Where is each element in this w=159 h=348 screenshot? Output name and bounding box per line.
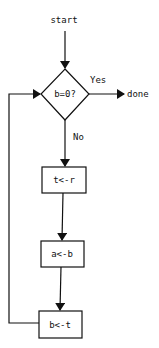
- flowchart: start b=0? Yes done No t<-r a<-b b<-t: [0, 0, 159, 348]
- step-label-a-b: a<-b: [51, 249, 73, 259]
- arrow-step2-step3: [60, 267, 61, 310]
- step-label-t-r: t<-r: [53, 175, 75, 185]
- decision-label: b=0?: [54, 89, 76, 99]
- done-label: done: [127, 89, 149, 99]
- arrow-step1-step2: [62, 193, 63, 240]
- start-label: start: [50, 15, 77, 25]
- loop-back-arrow: [9, 94, 40, 323]
- yes-label: Yes: [90, 75, 106, 85]
- no-label: No: [73, 132, 84, 142]
- step-label-b-t: b<-t: [49, 320, 71, 330]
